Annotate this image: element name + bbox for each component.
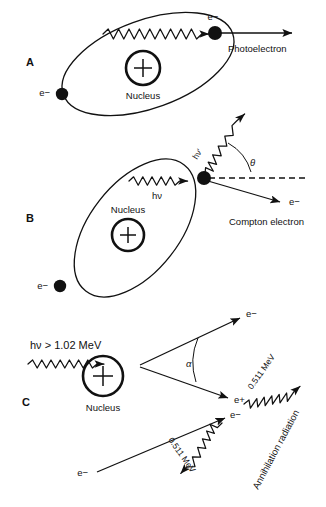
orbital-electron-label-b: e−	[37, 280, 48, 291]
compton-electron-arrow-b	[208, 181, 280, 202]
incoming-photon-label-b: hν	[152, 190, 162, 201]
annihilation-gamma-lower-label-c: 0.511 MeV	[166, 435, 198, 474]
nucleus-plus-b	[120, 227, 136, 243]
photoelectron-symbol-a: e−	[208, 11, 219, 22]
scattered-photon-label-b: hν'	[190, 146, 204, 161]
nucleus-label-b: Nucleus	[111, 204, 146, 215]
panel-a-group: A Nucleus e− e− Photoelectron	[26, 0, 292, 136]
compton-collision-dot-b	[197, 171, 211, 185]
annihilation-radiation-label-c: Annihilation radiation	[250, 408, 301, 491]
physics-figure: A Nucleus e− e− Photoelectron B	[0, 0, 326, 507]
panel-letter-a: A	[26, 56, 34, 68]
incoming-photon-wave-b	[129, 177, 188, 185]
positron-arrow-c	[140, 367, 228, 398]
alpha-angle-label-c: α	[186, 358, 192, 369]
compton-electron-label-b: Compton electron	[229, 216, 304, 227]
orbital-electron-dot-b	[54, 280, 66, 292]
photoelectron-label-a: Photoelectron	[228, 43, 287, 54]
incoming-electron-label-c: e−	[77, 467, 88, 478]
orbital-electron-dot-a	[56, 88, 68, 100]
alpha-angle-arc-c	[193, 338, 198, 382]
theta-angle-label-b: θ	[250, 157, 256, 168]
incoming-photon-wave-c	[28, 360, 104, 368]
annihilation-electron-label-c: e−	[230, 409, 241, 420]
incoming-photon-label-c: hν > 1.02 MeV	[30, 339, 102, 351]
scattered-photon-wave-b	[205, 114, 245, 174]
annihilation-gamma-upper-label-c: 0.511 MeV	[245, 352, 277, 391]
nucleus-plus-a	[134, 59, 152, 77]
panel-letter-b: B	[26, 212, 34, 224]
theta-angle-arc-b	[228, 143, 251, 172]
panel-c-group: C Nucleus hν > 1.02 MeV α e− e+ e− e	[22, 308, 301, 491]
diagram-canvas: A Nucleus e− e− Photoelectron B	[0, 0, 326, 507]
panel-letter-c: C	[22, 396, 30, 408]
incoming-electron-arrow-c	[97, 418, 225, 472]
incoming-photon-wave-a	[103, 29, 209, 39]
panel-b-group: B Nucleus e− hν hν' θ e− Compton electro…	[26, 114, 305, 319]
nucleus-label-c: Nucleus	[86, 402, 121, 413]
orbital-electron-label-a: e−	[39, 87, 50, 98]
nucleus-plus-c	[93, 366, 113, 386]
compton-electron-symbol-b: e−	[289, 196, 300, 207]
positron-label-c: e+	[234, 394, 245, 405]
electron-label-c: e−	[246, 308, 257, 319]
orbital-ellipse-b	[50, 137, 219, 318]
nucleus-label-a: Nucleus	[126, 90, 161, 101]
